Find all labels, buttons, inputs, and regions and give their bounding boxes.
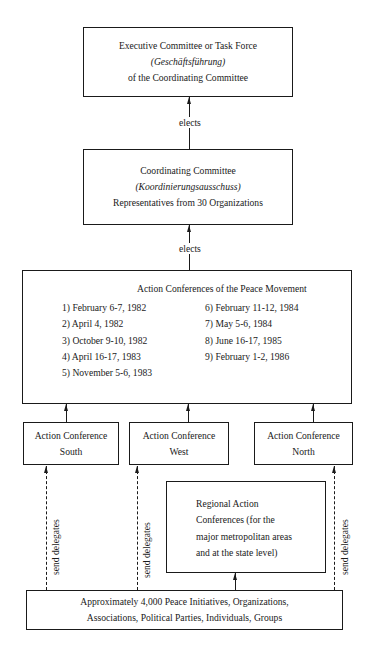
regional-line-4: and at the state level) bbox=[196, 545, 292, 561]
elects-label-middle: elects bbox=[177, 243, 203, 254]
south-line-1: Action Conference bbox=[35, 428, 108, 444]
conference-date: 2) April 4, 1982 bbox=[62, 316, 152, 332]
send-delegates-label-south: send delegates bbox=[50, 519, 61, 575]
executive-line-2: (Geschäftsführung) bbox=[151, 54, 226, 70]
elects-label-top: elects bbox=[177, 117, 203, 128]
action-conferences-box: Action Conferences of the Peace Movement… bbox=[22, 270, 352, 404]
regional-line-3: major metropolitan areas bbox=[196, 529, 292, 545]
send-delegates-line-south bbox=[46, 466, 47, 590]
regional-line-1: Regional Action bbox=[196, 496, 292, 512]
coordinating-line-1: Coordinating Committee bbox=[140, 163, 236, 179]
coordinating-line-3: Representatives from 30 Organizations bbox=[113, 195, 263, 211]
action-conference-north-box: Action Conference North bbox=[254, 422, 353, 465]
conference-dates-right: 6) February 11-12, 1984 7) May 5-6, 1984… bbox=[205, 300, 298, 365]
conference-date: 8) June 16-17, 1985 bbox=[205, 333, 298, 349]
action-conference-west-box: Action Conference West bbox=[129, 422, 229, 465]
send-delegates-label-west: send delegates bbox=[141, 522, 152, 578]
arrow-up-icon bbox=[135, 466, 139, 473]
base-line-1: Approximately 4,000 Peace Initiatives, O… bbox=[80, 594, 288, 610]
regional-action-text: Regional Action Conferences (for the maj… bbox=[196, 496, 292, 561]
regional-line-2: Conferences (for the bbox=[196, 512, 292, 528]
conference-date: 1) February 6-7, 1982 bbox=[62, 300, 152, 316]
conference-date: 6) February 11-12, 1984 bbox=[205, 300, 298, 316]
send-delegates-line-west bbox=[137, 466, 138, 590]
action-conference-south-box: Action Conference South bbox=[23, 422, 119, 465]
peace-initiatives-base-box: Approximately 4,000 Peace Initiatives, O… bbox=[26, 590, 343, 630]
arrow-up-icon bbox=[187, 97, 191, 104]
executive-line-3: of the Coordinating Committee bbox=[128, 70, 248, 86]
arrow-up-icon bbox=[64, 404, 68, 411]
conference-date: 5) November 5-6, 1983 bbox=[62, 365, 152, 381]
arrow-up-icon bbox=[332, 466, 336, 473]
regional-action-conferences-box: Regional Action Conferences (for the maj… bbox=[166, 481, 326, 573]
action-conferences-title: Action Conferences of the Peace Movement bbox=[137, 283, 307, 294]
conference-dates-left: 1) February 6-7, 1982 2) April 4, 1982 3… bbox=[62, 300, 152, 381]
executive-line-1: Executive Committee or Task Force bbox=[119, 38, 257, 54]
send-delegates-label-north: send delegates bbox=[339, 519, 350, 575]
south-line-2: South bbox=[60, 444, 82, 460]
arrow-up-icon bbox=[44, 466, 48, 473]
executive-committee-box: Executive Committee or Task Force (Gesch… bbox=[83, 27, 293, 97]
west-line-2: West bbox=[170, 444, 189, 460]
coordinating-line-2: (Koordinierungsausschuss) bbox=[135, 179, 240, 195]
conference-date: 4) April 16-17, 1983 bbox=[62, 349, 152, 365]
base-line-2: Associations, Political Parties, Individ… bbox=[87, 610, 282, 626]
conference-date: 3) October 9-10, 1982 bbox=[62, 333, 152, 349]
arrow-up-icon bbox=[233, 573, 237, 580]
arrow-up-icon bbox=[311, 404, 315, 411]
coordinating-committee-box: Coordinating Committee (Koordinierungsau… bbox=[83, 149, 293, 225]
north-line-1: Action Conference bbox=[267, 428, 340, 444]
west-line-1: Action Conference bbox=[143, 428, 216, 444]
conference-date: 9) February 1-2, 1986 bbox=[205, 349, 298, 365]
north-line-2: North bbox=[292, 444, 314, 460]
conference-date: 7) May 5-6, 1984 bbox=[205, 316, 298, 332]
send-delegates-line-north bbox=[334, 466, 335, 590]
arrow-up-icon bbox=[187, 225, 191, 232]
arrow-up-icon bbox=[186, 404, 190, 411]
